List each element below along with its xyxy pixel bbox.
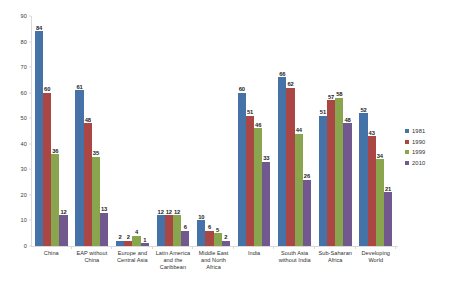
legend-label: 1999 [412,149,426,155]
bar[interactable]: 36 [51,154,59,246]
bar[interactable]: 51 [319,116,327,246]
bar[interactable]: 26 [303,180,311,246]
y-axis-tick-label: 50 [21,115,31,121]
x-axis-category-labels: ChinaEAP without ChinaEurope and Central… [31,250,396,272]
bar[interactable]: 1 [141,243,149,246]
bar-value-label: 46 [255,122,261,128]
bar[interactable]: 35 [92,157,100,246]
bar[interactable]: 48 [84,123,92,246]
bar[interactable]: 2 [116,241,124,246]
bar-value-label: 12 [158,209,164,215]
bar-slot: 12 [165,16,173,246]
bar[interactable]: 5 [214,233,222,246]
bar-slot: 6 [205,16,213,246]
bar-value-label: 60 [44,86,50,92]
bar-value-label: 5 [216,227,219,233]
bar[interactable]: 12 [59,215,67,246]
bar-slot: 48 [343,16,351,246]
bar[interactable]: 66 [278,77,286,246]
bar-value-label: 44 [296,127,302,133]
bar-value-label: 12 [174,209,180,215]
bar-slot: 12 [173,16,181,246]
bar-value-label: 21 [385,186,391,192]
x-axis-tick-mark [355,246,356,249]
bar-value-label: 48 [344,117,350,123]
x-axis-category-label: China [31,250,72,272]
bar[interactable]: 62 [286,88,294,246]
bar[interactable]: 46 [254,128,262,246]
bar[interactable]: 60 [43,93,51,246]
bar-value-label: 6 [208,224,211,230]
bar[interactable]: 12 [157,215,165,246]
bar-slot: 33 [262,16,270,246]
y-axis-tick-label: 70 [21,64,31,70]
bar-value-label: 51 [320,109,326,115]
bar-slot: 1 [141,16,149,246]
bar[interactable]: 13 [100,213,108,246]
bar[interactable]: 84 [35,31,43,246]
bar[interactable]: 52 [359,113,367,246]
bar[interactable]: 12 [173,215,181,246]
bar-group: 61483513 [72,16,113,246]
bar[interactable]: 6 [205,231,213,246]
legend-color-swatch [405,161,409,165]
bar[interactable]: 2 [124,241,132,246]
bar[interactable]: 33 [262,162,270,246]
legend-item[interactable]: 1981 [405,128,426,134]
bar[interactable]: 21 [384,192,392,246]
bar-value-label: 2 [127,234,130,240]
bar[interactable]: 57 [327,100,335,246]
bar[interactable]: 44 [295,134,303,246]
legend-item[interactable]: 1999 [405,149,426,155]
x-axis-tick-mark [314,246,315,249]
y-axis-tick-label: 80 [21,39,31,45]
bar[interactable]: 34 [376,159,384,246]
bar-value-label: 34 [377,153,383,159]
bar-value-label: 35 [93,150,99,156]
bar-group: 60514633 [234,16,275,246]
legend-item[interactable]: 1990 [405,139,426,145]
legend-color-swatch [405,129,409,133]
bar-slot: 84 [35,16,43,246]
bar[interactable]: 10 [197,220,205,246]
bar[interactable]: 2 [222,241,230,246]
bar-value-label: 4 [135,229,138,235]
bar-value-label: 10 [198,214,204,220]
bar-slot: 2 [116,16,124,246]
y-axis-tick-label: 30 [21,166,31,172]
bar[interactable]: 43 [368,136,376,246]
bar-slot: 6 [181,16,189,246]
y-axis-tick-label: 60 [21,90,31,96]
bar[interactable]: 48 [343,123,351,246]
bar-slot: 60 [238,16,246,246]
bar-value-label: 33 [263,155,269,161]
bar-group: 1212126 [153,16,194,246]
bar[interactable]: 12 [165,215,173,246]
bar-value-label: 62 [287,81,293,87]
bar-slot: 35 [92,16,100,246]
x-axis-line [31,246,398,247]
bar-slot: 21 [384,16,392,246]
bar[interactable]: 60 [238,93,246,246]
bar-slot: 52 [359,16,367,246]
y-axis-tick-label: 20 [21,192,31,198]
bar-slot: 62 [286,16,294,246]
legend-item[interactable]: 2010 [405,160,426,166]
x-axis-category-label: Europe and Central Asia [112,250,153,272]
bar-group: 51575848 [315,16,356,246]
bar[interactable]: 58 [335,98,343,246]
bar-slot: 34 [376,16,384,246]
bar[interactable]: 4 [132,236,140,246]
bar[interactable]: 61 [75,90,83,246]
bar-value-label: 12 [60,209,66,215]
y-axis-tick-label: 40 [21,141,31,147]
bar[interactable]: 51 [246,116,254,246]
y-axis-tick-label: 90 [21,13,31,19]
bar-slot: 5 [214,16,222,246]
legend-label: 1981 [412,128,426,134]
bar[interactable]: 6 [181,231,189,246]
bar-chart: 0102030405060708090 84603612614835132241… [0,0,450,284]
x-axis-tick-mark [71,246,72,249]
bar-group: 66624426 [274,16,315,246]
x-axis-tick-mark [152,246,153,249]
